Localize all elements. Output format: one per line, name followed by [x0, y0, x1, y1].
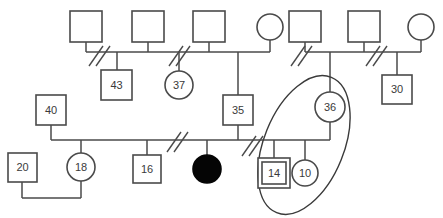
affected-female-circle-icon[interactable] [193, 155, 221, 183]
slash-stroke [167, 132, 181, 152]
bottom-union [22, 181, 81, 198]
genogram-canvas: 43 37 35 36 30 40 20 18 [0, 0, 443, 218]
node-g1-m3[interactable] [193, 11, 225, 42]
male-square-icon[interactable] [70, 11, 102, 42]
node-age-label: 18 [75, 161, 87, 173]
separation-mark [167, 132, 188, 152]
node-g2-37[interactable]: 37 [165, 71, 193, 99]
slash-stroke [89, 46, 103, 66]
female-circle-icon[interactable] [257, 14, 283, 40]
female-circle-icon[interactable] [408, 14, 434, 40]
node-g3-40[interactable]: 40 [36, 95, 66, 125]
separation-mark [291, 46, 312, 66]
node-age-label: 14 [268, 167, 280, 179]
node-g3-14-index[interactable]: 14 [258, 158, 290, 188]
slash-stroke [96, 46, 110, 66]
gen2-droplines [117, 52, 397, 95]
node-g1-f2[interactable] [408, 14, 434, 40]
node-g3-20[interactable]: 20 [8, 153, 37, 182]
node-g1-m1[interactable] [70, 11, 102, 42]
genogram-drawing: 43 37 35 36 30 40 20 18 [0, 0, 443, 218]
slash-stroke [169, 46, 183, 66]
node-age-label: 10 [299, 167, 311, 179]
node-age-label: 20 [16, 161, 28, 173]
node-g1-m2[interactable] [132, 11, 164, 42]
node-age-label: 30 [391, 83, 403, 95]
node-g3-10[interactable]: 10 [292, 160, 318, 186]
slash-stroke [291, 46, 305, 66]
male-square-icon[interactable] [132, 11, 164, 42]
node-g3-affected[interactable] [193, 155, 221, 183]
male-square-icon[interactable] [289, 11, 321, 42]
node-g2-36[interactable]: 36 [315, 92, 345, 122]
slash-stroke [242, 136, 256, 156]
node-g2-35[interactable]: 35 [223, 95, 253, 125]
gen3-droplines [81, 140, 305, 160]
slash-stroke [366, 46, 380, 66]
node-g1-m4[interactable] [289, 11, 321, 42]
slash-stroke [174, 132, 188, 152]
separation-mark [89, 46, 110, 66]
node-age-label: 36 [324, 101, 336, 113]
node-age-label: 43 [110, 79, 122, 91]
node-g3-18[interactable]: 18 [67, 153, 95, 181]
node-g1-m5[interactable] [348, 11, 380, 42]
node-g1-f1[interactable] [257, 14, 283, 40]
node-g2-30[interactable]: 30 [382, 75, 412, 104]
separation-mark [366, 46, 387, 66]
node-age-label: 40 [45, 104, 57, 116]
node-g3-16[interactable]: 16 [133, 155, 161, 183]
node-age-label: 16 [141, 163, 153, 175]
male-square-icon[interactable] [348, 11, 380, 42]
slash-stroke [373, 46, 387, 66]
node-g2-43[interactable]: 43 [101, 70, 132, 100]
node-age-label: 37 [173, 79, 185, 91]
node-age-label: 35 [232, 104, 244, 116]
slash-stroke [176, 46, 190, 66]
gen2-partner-stems [51, 122, 330, 140]
male-square-icon[interactable] [193, 11, 225, 42]
